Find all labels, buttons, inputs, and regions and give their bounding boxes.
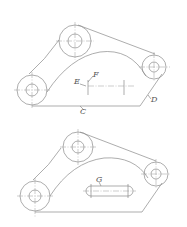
top-edge: [80, 132, 156, 161]
left-tangent-arc: [33, 148, 61, 180]
label-c: C: [80, 107, 86, 116]
label-e: E: [73, 77, 80, 86]
bottom-figure: G: [17, 129, 171, 218]
top-edge: [78, 25, 155, 54]
leader-line: [80, 84, 86, 86]
left-tangent-arc: [29, 40, 59, 74]
label-f: F: [92, 70, 99, 79]
drawing-canvas: E F C D G: [0, 0, 187, 227]
top-figure: E F C D: [14, 22, 170, 116]
label-g: G: [96, 175, 103, 184]
label-d: D: [150, 95, 158, 104]
right-edge: [142, 183, 162, 212]
